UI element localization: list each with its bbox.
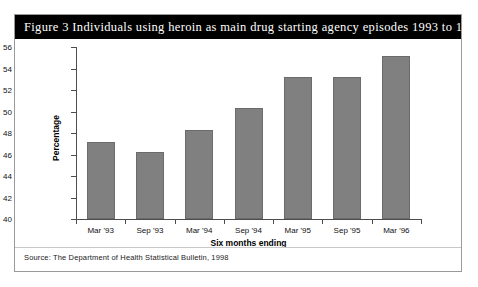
y-axis-tick — [71, 155, 76, 156]
x-axis-tick-label: Sep '94 — [235, 226, 262, 235]
x-axis-tick — [372, 219, 373, 224]
x-axis-tick-label: Mar '96 — [383, 226, 409, 235]
y-axis-tick — [71, 47, 76, 48]
x-axis-tick-label: Sep '95 — [334, 226, 361, 235]
x-axis-tick-label: Mar '94 — [186, 226, 212, 235]
y-axis-tick-label: 56 — [3, 43, 12, 52]
y-axis-line — [76, 47, 77, 219]
source-divider — [15, 247, 461, 248]
y-axis-tick — [71, 69, 76, 70]
y-axis-tick — [71, 112, 76, 113]
x-axis-tick — [273, 219, 274, 224]
bar — [235, 108, 263, 219]
x-axis-tick-label: Mar '93 — [87, 226, 113, 235]
y-axis-tick-label: 50 — [3, 107, 12, 116]
x-axis-line — [76, 219, 421, 220]
x-axis-tick — [421, 219, 422, 224]
x-axis-tick-label: Sep '93 — [136, 226, 163, 235]
y-axis-tick-label: 42 — [3, 193, 12, 202]
bar — [136, 152, 164, 219]
x-axis-tick — [125, 219, 126, 224]
x-axis-tick — [76, 219, 77, 224]
y-axis-tick — [71, 133, 76, 134]
bar — [333, 77, 361, 219]
y-axis-tick-label: 40 — [3, 215, 12, 224]
chart-plot-area: 404244464850525456 Mar '93Sep '93Mar '94… — [15, 39, 461, 247]
y-axis-title: Percentage — [51, 115, 61, 161]
y-axis-tick-label: 52 — [3, 86, 12, 95]
x-axis-tick — [175, 219, 176, 224]
source-note: Source: The Department of Health Statist… — [24, 253, 229, 262]
bar — [284, 77, 312, 219]
bar — [382, 56, 410, 219]
y-axis-tick — [71, 198, 76, 199]
y-axis-tick-label: 54 — [3, 64, 12, 73]
x-axis-tick — [322, 219, 323, 224]
y-axis-tick-label: 46 — [3, 150, 12, 159]
figure-container: Figure 3 Individuals using heroin as mai… — [14, 14, 462, 272]
figure-title: Figure 3 Individuals using heroin as mai… — [15, 20, 478, 35]
y-axis-tick — [71, 176, 76, 177]
y-axis-tick-label: 48 — [3, 129, 12, 138]
bar — [185, 130, 213, 219]
x-axis-tick — [224, 219, 225, 224]
y-axis-tick-label: 44 — [3, 172, 12, 181]
y-axis-tick — [71, 90, 76, 91]
x-axis-tick-label: Mar '95 — [285, 226, 311, 235]
figure-title-bar: Figure 3 Individuals using heroin as mai… — [15, 15, 461, 39]
bar — [87, 142, 115, 219]
